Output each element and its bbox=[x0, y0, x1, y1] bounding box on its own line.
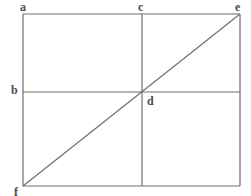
vertex-label-a: a bbox=[20, 1, 26, 13]
figure-canvas bbox=[0, 0, 251, 196]
geometry-figure: a c e b d f bbox=[0, 0, 251, 196]
vertex-label-f: f bbox=[14, 186, 18, 196]
vertex-label-d: d bbox=[147, 95, 154, 107]
diagonal-line-group bbox=[23, 14, 240, 186]
vertex-label-e: e bbox=[235, 1, 240, 13]
vertex-label-c: c bbox=[138, 1, 143, 13]
diagonal-line bbox=[23, 14, 240, 186]
vertex-label-b: b bbox=[11, 84, 18, 96]
